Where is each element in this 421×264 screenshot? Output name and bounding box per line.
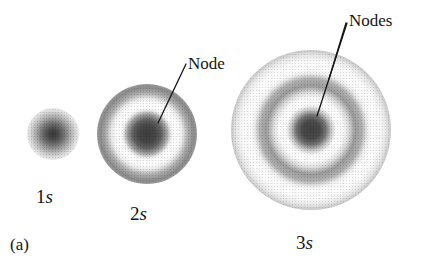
orbital-label-2s-symbol: s <box>140 203 147 224</box>
panel-label: (a) <box>10 236 29 253</box>
orbital-cloud-3s <box>231 50 391 210</box>
orbital-label-2s-number: 2 <box>130 203 140 224</box>
orbital-cloud-2s <box>97 84 197 184</box>
halftone-grain-1s <box>27 108 79 160</box>
orbital-label-1s: 1s <box>36 187 53 206</box>
callout-label-nodes-3s: Nodes <box>349 12 392 29</box>
orbital-label-3s-symbol: s <box>306 232 313 253</box>
orbital-label-3s-number: 3 <box>296 232 306 253</box>
orbital-label-1s-symbol: s <box>46 186 53 207</box>
orbital-label-3s: 3s <box>296 233 313 252</box>
halftone-grain-3s <box>231 50 391 210</box>
orbital-label-2s: 2s <box>130 204 147 223</box>
orbital-label-1s-number: 1 <box>36 186 46 207</box>
callout-label-node-2s: Node <box>188 55 225 72</box>
orbital-cloud-1s <box>27 108 79 160</box>
orbital-figure: Node Nodes 1s 2s 3s (a) <box>0 0 421 264</box>
halftone-grain-2s <box>97 84 197 184</box>
